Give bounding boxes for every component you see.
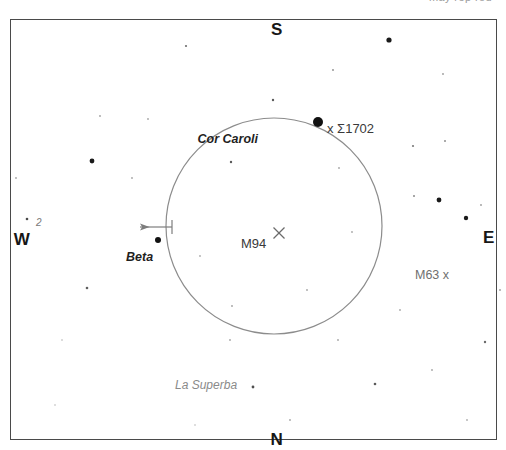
star-chart-root: may rep rod SNWECor Carolix Σ1702M94M63 … [0, 0, 506, 450]
label-magnitude-two: 2 [36, 217, 42, 228]
cardinal-s: S [271, 20, 283, 40]
cardinal-w: W [14, 230, 31, 250]
star-point [499, 289, 501, 291]
cardinal-e: E [483, 228, 495, 248]
label-beta: Beta [126, 250, 153, 264]
label-m63: M63 x [415, 268, 449, 282]
star-map-frame [10, 19, 497, 440]
page-caption: may rep rod [0, 0, 506, 5]
label-m94: M94 [241, 236, 266, 251]
cardinal-n: N [271, 430, 284, 450]
label-struve-1702: x Σ1702 [327, 121, 374, 136]
label-la-superba: La Superba [175, 378, 237, 392]
label-cor-caroli: Cor Caroli [198, 132, 258, 146]
